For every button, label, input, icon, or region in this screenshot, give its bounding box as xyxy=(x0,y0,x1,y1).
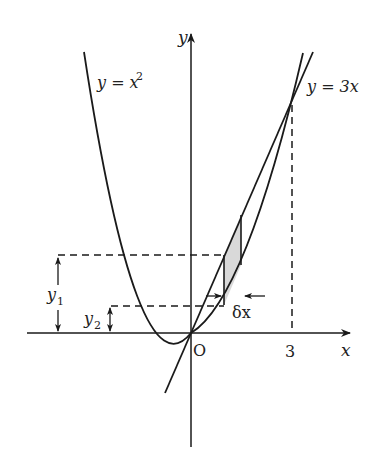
y1-subscript: 1 xyxy=(57,295,64,308)
y-axis-label: y xyxy=(177,27,188,47)
delta-x-label: δx xyxy=(232,303,251,322)
curve-label-exponent: 2 xyxy=(136,70,143,83)
x-tick-3: 3 xyxy=(285,342,295,361)
y1-label: y xyxy=(46,285,57,304)
x-axis-label: x xyxy=(341,340,351,360)
line-label: y = 3x xyxy=(306,77,359,96)
origin-label: O xyxy=(193,341,206,360)
diagram-canvas: y x O 3 y = x 2 y = 3x y 1 y 2 δx xyxy=(0,0,377,451)
curve-label: y = x xyxy=(96,73,139,92)
y2-label: y xyxy=(83,309,94,328)
y2-subscript: 2 xyxy=(94,319,101,332)
parabola-curve xyxy=(84,52,303,344)
